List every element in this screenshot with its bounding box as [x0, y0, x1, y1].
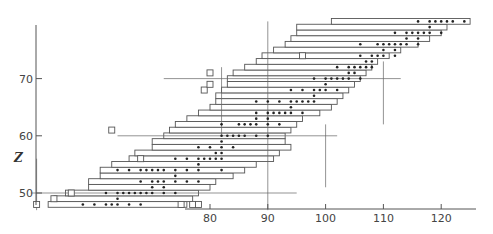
- stable-dot: [197, 180, 200, 183]
- x-tick-label: 80: [203, 212, 217, 225]
- stable-dot: [232, 135, 235, 138]
- stable-dot: [272, 112, 275, 115]
- stable-dot: [365, 60, 368, 63]
- stable-dot: [139, 203, 142, 206]
- isomer-box: [109, 127, 115, 133]
- stable-dot: [319, 89, 322, 92]
- y-tick-label: 50: [19, 187, 33, 200]
- stable-dot: [313, 89, 316, 92]
- isotope-bar-z56: [129, 156, 274, 162]
- isotope-bar-z79: [297, 24, 447, 30]
- stable-dot: [405, 43, 408, 46]
- stable-dot: [214, 157, 217, 160]
- isotope-bar-z76: [285, 41, 418, 47]
- stable-dot: [290, 112, 293, 115]
- stable-dot: [405, 32, 408, 35]
- stable-dot: [359, 66, 362, 69]
- stable-dot: [267, 117, 270, 120]
- isomer-box: [34, 201, 40, 207]
- isomer-box: [207, 81, 213, 87]
- stable-dot: [110, 203, 113, 206]
- stable-dot: [278, 123, 281, 126]
- stable-dot: [359, 77, 362, 80]
- isotope-bars: [48, 19, 470, 208]
- stable-dot: [376, 43, 379, 46]
- isotope-bar-z69: [227, 81, 354, 87]
- stable-dot: [463, 20, 466, 23]
- isotope-bar-z65: [210, 104, 331, 110]
- stable-dot: [151, 192, 154, 195]
- isomer-box: [190, 201, 196, 207]
- isomer-box: [138, 156, 144, 162]
- stable-dot: [440, 32, 443, 35]
- y-axis-title: Z: [13, 151, 24, 165]
- stable-dot: [255, 135, 258, 138]
- stable-dot: [411, 32, 414, 35]
- stable-dot: [197, 163, 200, 166]
- isotope-bar-z54: [100, 167, 245, 173]
- stable-dot: [186, 157, 189, 160]
- stable-dot: [186, 180, 189, 183]
- isomer-box: [195, 201, 201, 207]
- stable-dot: [139, 192, 142, 195]
- stable-dot: [232, 146, 235, 149]
- stable-dot: [255, 123, 258, 126]
- stable-dot: [451, 20, 454, 23]
- stable-dot: [428, 32, 431, 35]
- stable-dot: [371, 60, 374, 63]
- stable-dot: [388, 43, 391, 46]
- stable-dot: [255, 117, 258, 120]
- stable-dot: [394, 43, 397, 46]
- isotope-bar-z72: [245, 64, 372, 70]
- stable-dot: [93, 203, 96, 206]
- isomer-box: [201, 87, 207, 93]
- isotope-bar-z61: [170, 127, 291, 133]
- stable-dot: [336, 89, 339, 92]
- isomer-box: [178, 201, 184, 207]
- stable-dot: [347, 66, 350, 69]
- stable-dot: [116, 197, 119, 200]
- stable-dot: [220, 123, 223, 126]
- stable-dot: [313, 94, 316, 97]
- stable-dot: [134, 192, 137, 195]
- isotope-bar-z78: [297, 30, 442, 36]
- stable-dot: [376, 54, 379, 57]
- stable-dot: [267, 123, 270, 126]
- stable-dot: [399, 43, 402, 46]
- stable-dot: [290, 100, 293, 103]
- stable-dot: [209, 146, 212, 149]
- stable-dot: [226, 135, 229, 138]
- isotope-bar-z75: [274, 47, 401, 53]
- stable-dot: [278, 112, 281, 115]
- stable-dot: [417, 37, 420, 40]
- stable-dot: [284, 112, 287, 115]
- stable-dot: [105, 203, 108, 206]
- stable-dot: [428, 20, 431, 23]
- stable-dot: [290, 106, 293, 109]
- stable-dot: [139, 169, 142, 172]
- stable-dot: [214, 152, 217, 155]
- stable-dot: [157, 180, 160, 183]
- stable-dot: [394, 54, 397, 57]
- stable-dot: [307, 100, 310, 103]
- stable-dot: [371, 66, 374, 69]
- stable-dot: [249, 123, 252, 126]
- stable-dot: [382, 43, 385, 46]
- stable-dot: [394, 32, 397, 35]
- stable-dot: [301, 112, 304, 115]
- isotope-bar-z57: [135, 150, 279, 156]
- stable-dot: [243, 123, 246, 126]
- y-tick-label: 70: [19, 73, 33, 86]
- isotope-bar-z63: [187, 116, 303, 122]
- stable-dot: [417, 32, 420, 35]
- stable-dot: [324, 89, 327, 92]
- stable-dot: [238, 135, 241, 138]
- stable-dot: [174, 180, 177, 183]
- stable-dot: [128, 192, 131, 195]
- stable-dot: [353, 66, 356, 69]
- stable-dot: [267, 112, 270, 115]
- nuclide-chart: 5060708090100110120 Z: [0, 0, 493, 234]
- isotope-bar-z77: [291, 36, 430, 42]
- stable-dot: [423, 32, 426, 35]
- stable-dot: [162, 192, 165, 195]
